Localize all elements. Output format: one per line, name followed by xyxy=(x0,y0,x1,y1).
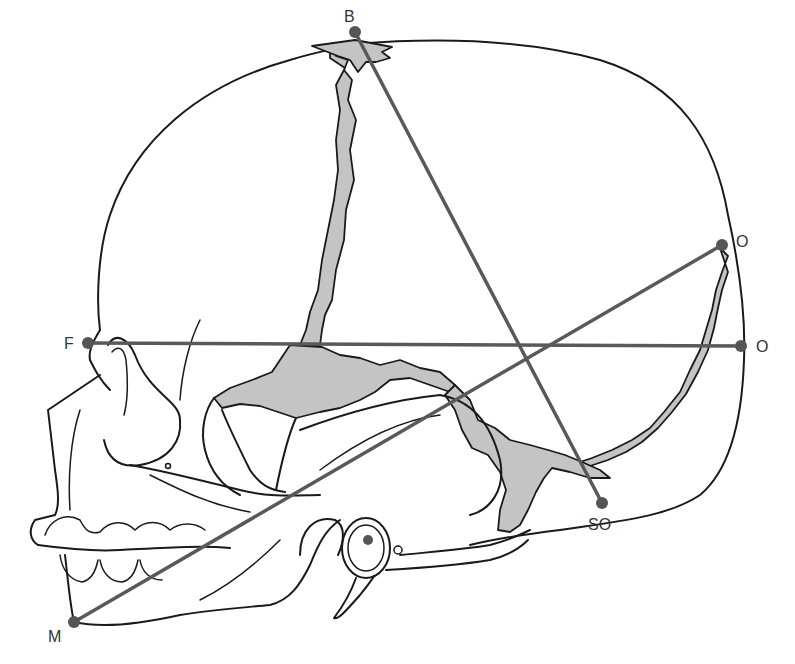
auditory-canal-dot xyxy=(363,535,373,545)
skull-diagram: B O F O SO M xyxy=(0,0,795,664)
occipital-base xyxy=(400,530,530,555)
frontal-zygomatic-line xyxy=(180,320,200,400)
landmark-point-o-upper xyxy=(716,239,728,251)
mandible xyxy=(65,520,340,625)
label-o-upper: O xyxy=(736,233,748,250)
styloid-process xyxy=(334,576,374,618)
zygomatic-arch xyxy=(130,465,320,496)
orbit-outline xyxy=(104,338,180,466)
line-f-to-o xyxy=(88,343,741,346)
landmark-points xyxy=(68,26,747,628)
stylomastoid-foramen xyxy=(394,546,402,554)
nasal-outline xyxy=(31,375,100,545)
tympanic-ring xyxy=(342,518,390,578)
landmark-point-so xyxy=(596,497,608,509)
label-o-lower: O xyxy=(756,338,768,355)
tympanic-region xyxy=(300,518,530,618)
label-b: B xyxy=(344,8,355,25)
sphenoid-edge xyxy=(203,398,240,495)
inner-suture-lines xyxy=(180,320,501,515)
greater-wing xyxy=(222,410,285,492)
sphenoidal-fontanelle xyxy=(214,345,455,418)
bregma-spread xyxy=(312,40,392,72)
cranial-vault-outline xyxy=(98,41,744,545)
anterior-fontanelle xyxy=(300,44,356,345)
mandible-outline xyxy=(65,520,340,625)
label-so: SO xyxy=(588,516,611,533)
mandible-ramus xyxy=(200,540,280,600)
lambdoid-suture xyxy=(580,248,728,466)
landmark-point-f xyxy=(82,337,94,349)
landmark-point-b xyxy=(349,26,361,38)
upper-teeth xyxy=(45,517,205,535)
line-m-to-o xyxy=(74,245,722,622)
maxilla-inner-line xyxy=(69,410,80,510)
label-m: M xyxy=(48,628,61,645)
tympanic-ring-inner xyxy=(348,525,384,571)
label-f: F xyxy=(64,335,74,352)
landmark-point-o-lower xyxy=(735,340,747,352)
orbit-inner xyxy=(112,348,127,415)
skull-outline xyxy=(90,41,745,545)
infraorbital-foramen xyxy=(166,464,171,469)
squamous-suture xyxy=(276,418,296,490)
condyle xyxy=(300,519,343,555)
landmark-point-m xyxy=(68,616,80,628)
landmark-labels: B O F O SO M xyxy=(48,8,768,645)
